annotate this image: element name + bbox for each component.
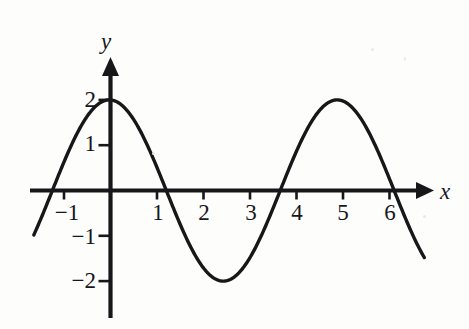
x-axis-label: x <box>440 180 450 203</box>
x-axis <box>30 182 434 199</box>
y-axis-arrowhead <box>102 57 119 76</box>
x-tick-label-1: 1 <box>144 201 172 224</box>
y-tick-label-neg2: −2 <box>56 269 96 292</box>
x-tick-label-5: 5 <box>329 201 357 224</box>
y-tick-label-1: 1 <box>66 132 96 155</box>
x-tick-label-3: 3 <box>237 201 265 224</box>
x-tick-label-4: 4 <box>283 201 311 224</box>
y-axis <box>102 57 119 318</box>
x-tick-label-neg1: −1 <box>53 201 81 224</box>
graph-figure: −1 1 2 3 4 5 6 2 1 −1 −2 x y <box>0 0 469 329</box>
y-tick-label-neg1: −1 <box>56 225 96 248</box>
y-tick-label-2: 2 <box>66 88 96 111</box>
x-tick-label-2: 2 <box>190 201 218 224</box>
x-tick-label-6: 6 <box>376 201 404 224</box>
y-axis-label: y <box>101 30 111 53</box>
x-axis-arrowhead <box>416 182 434 199</box>
